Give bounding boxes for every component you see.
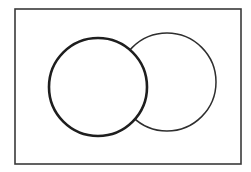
venn-diagram xyxy=(0,0,251,172)
left-set-circle xyxy=(49,38,147,136)
